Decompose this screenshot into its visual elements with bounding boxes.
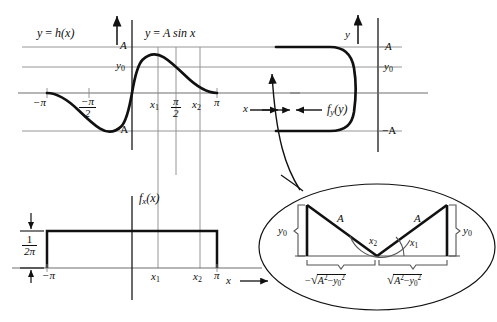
- probability-transformation-figure: [0, 0, 497, 322]
- fx-xtick-x2: x2: [193, 271, 202, 284]
- inset-connector: [281, 175, 303, 191]
- inset-base-right-label: √A2−y02: [387, 273, 422, 288]
- fx-xtick-x1: x1: [151, 271, 160, 284]
- top-xtick-x2: x2: [192, 99, 201, 112]
- top-xtick-neg-pi-half: −π2: [79, 96, 96, 119]
- fy-y-axis-label: y: [345, 29, 350, 40]
- fy-ytick-A: A: [385, 41, 392, 52]
- fx-height-label: 12π: [22, 234, 37, 257]
- top-xtick-pi: π: [214, 97, 220, 108]
- top-ytick-negA: −A: [114, 124, 128, 135]
- fx-xtick-pi: π: [214, 270, 220, 281]
- inset-A-left: A: [337, 213, 344, 224]
- top-xtick-x1: x1: [150, 99, 159, 112]
- top-xtick-pi-half: π2: [171, 96, 181, 119]
- fy-label: fy(y): [327, 103, 348, 117]
- inset-angle-x1: x1: [410, 238, 418, 250]
- fy-ytick-y0: y0: [384, 61, 393, 74]
- fy-density-curve: [276, 47, 356, 131]
- fx-xtick-neg-pi: −π: [42, 270, 55, 281]
- inset-A-right: A: [414, 213, 421, 224]
- inset-base-left-label: −√A2−y02: [305, 273, 346, 288]
- top-x-axis-label: x: [243, 103, 248, 114]
- top-ytick-A: A: [120, 40, 127, 51]
- top-xtick-neg-pi: −π: [33, 97, 46, 108]
- h-of-x-label: y = h(x): [37, 27, 74, 39]
- inset-y0-left: y0: [278, 225, 287, 238]
- inset-y0-right: y0: [463, 225, 472, 238]
- inset-angle-x2: x2: [369, 236, 377, 248]
- top-ytick-y0: y0: [116, 60, 125, 73]
- fy-ytick-negA: −A: [382, 125, 396, 136]
- fx-label: fx(x): [139, 192, 160, 206]
- fx-x-axis-label: x: [226, 275, 231, 286]
- a-sin-x-label: y = A sin x: [145, 27, 195, 39]
